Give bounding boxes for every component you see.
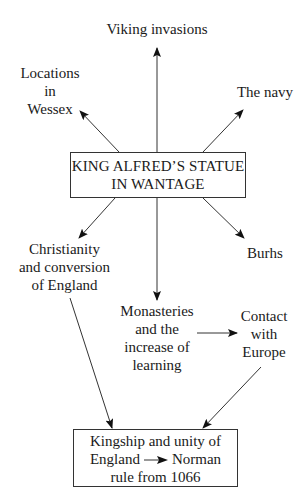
node-label: The navy — [230, 83, 300, 101]
central-topic-line: KING ALFRED’S STATUE — [71, 157, 245, 175]
node-label: Christianity — [7, 240, 122, 258]
outcome-england: England — [90, 451, 140, 467]
node-label: increase of — [112, 338, 202, 356]
node-label: Monasteries — [112, 302, 202, 320]
node-label: Locations — [10, 64, 90, 82]
outcome-box: Kingship and unity of EnglandNorman rule… — [73, 429, 238, 487]
mind-map-diagram: Viking invasions Locations in Wessex The… — [0, 0, 305, 502]
outcome-norman: Norman — [172, 451, 221, 467]
node-monasteries: Monasteries and the increase of learning — [112, 302, 202, 374]
node-label: Contact — [234, 307, 294, 325]
node-label: Burhs — [240, 244, 290, 262]
node-label: Wessex — [10, 100, 90, 118]
node-christianity: Christianity and conversion of England — [7, 240, 122, 294]
central-topic-box: KING ALFRED’S STATUE IN WANTAGE — [70, 152, 246, 198]
node-locations-in-wessex: Locations in Wessex — [10, 64, 90, 118]
outcome-line-2: EnglandNorman — [74, 450, 237, 468]
central-topic-line: IN WANTAGE — [71, 175, 245, 193]
node-label: Europe — [234, 343, 294, 361]
node-viking-invasions: Viking invasions — [97, 20, 217, 38]
node-contact-with-europe: Contact with Europe — [234, 307, 294, 361]
arrow-europe-to-kingship — [203, 367, 261, 428]
node-burhs: Burhs — [240, 244, 290, 262]
node-label: Viking invasions — [97, 20, 217, 38]
right-arrow-icon — [143, 455, 169, 465]
node-label: and the — [112, 320, 202, 338]
arrow-to-the-navy — [203, 110, 243, 152]
arrow-to-christianity — [79, 198, 115, 238]
node-label: with — [234, 325, 294, 343]
node-label: and conversion — [7, 258, 122, 276]
node-label: learning — [112, 356, 202, 374]
node-label: in — [10, 82, 90, 100]
arrow-to-burhs — [203, 198, 244, 238]
outcome-line-3: rule from 1066 — [74, 468, 237, 486]
node-label: of England — [7, 276, 122, 294]
outcome-line-1: Kingship and unity of — [74, 432, 237, 450]
arrow-christianity-to-kingship — [70, 298, 112, 428]
node-the-navy: The navy — [230, 83, 300, 101]
